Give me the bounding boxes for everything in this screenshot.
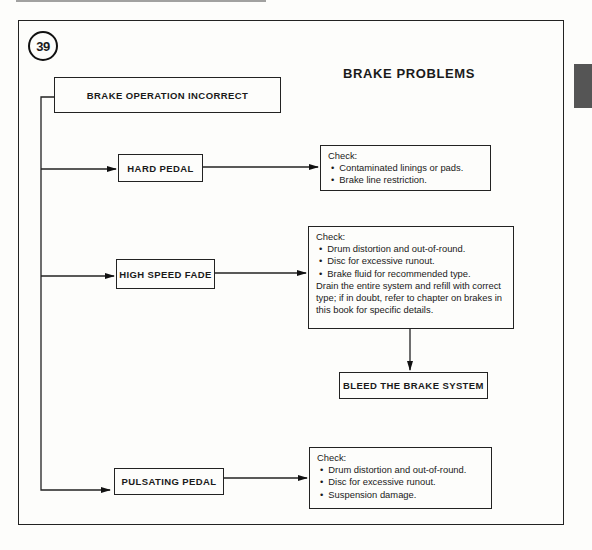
check-item: Brake line restriction. [328,174,484,186]
check-list: Drum distortion and out-of-round. Disc f… [317,464,485,501]
check-item: Suspension damage. [317,489,485,501]
check-item: Brake fluid for recommended type. [316,268,507,280]
check-item: Disc for excessive runout. [317,476,485,488]
check-box-high-speed-fade: Check: Drum distortion and out-of-round.… [308,226,514,329]
problem-label: HIGH SPEED FADE [119,269,212,280]
check-heading: Check: [317,452,485,464]
action-node-bleed-brake-system: BLEED THE BRAKE SYSTEM [339,372,488,399]
diagram-title: BRAKE PROBLEMS [343,66,475,81]
action-label: BLEED THE BRAKE SYSTEM [343,380,484,391]
check-item: Disc for excessive runout. [316,255,507,267]
check-heading: Check: [316,231,507,243]
check-list: Contaminated linings or pads. Brake line… [328,162,484,186]
figure-number: 39 [36,39,49,54]
check-list: Drum distortion and out-of-round. Disc f… [316,243,507,280]
check-item: Drum distortion and out-of-round. [317,464,485,476]
check-item: Contaminated linings or pads. [328,162,484,174]
check-box-pulsating-pedal: Check: Drum distortion and out-of-round.… [309,447,492,509]
check-heading: Check: [328,150,484,162]
check-note: Drain the entire system and refill with … [316,280,507,317]
check-item: Drum distortion and out-of-round. [316,243,507,255]
problem-node-high-speed-fade: HIGH SPEED FADE [116,259,215,289]
root-node-brake-operation-incorrect: BRAKE OPERATION INCORRECT [54,77,281,113]
problem-label: HARD PEDAL [127,163,193,174]
check-box-hard-pedal: Check: Contaminated linings or pads. Bra… [320,145,491,191]
problem-node-pulsating-pedal: PULSATING PEDAL [114,468,224,495]
root-node-label: BRAKE OPERATION INCORRECT [87,90,248,101]
problem-node-hard-pedal: HARD PEDAL [118,154,203,182]
problem-label: PULSATING PEDAL [121,476,216,487]
figure-number-badge: 39 [28,31,58,61]
